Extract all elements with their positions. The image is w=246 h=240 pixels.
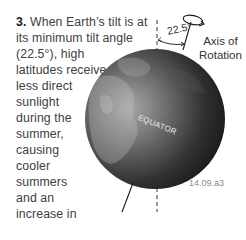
rotation-axis-line-bottom	[122, 183, 133, 212]
axis-of-rotation-label: Axis of Rotation	[199, 34, 242, 62]
figure-id: 14.09.a3	[189, 178, 224, 188]
angle-arc-icon	[158, 38, 184, 47]
